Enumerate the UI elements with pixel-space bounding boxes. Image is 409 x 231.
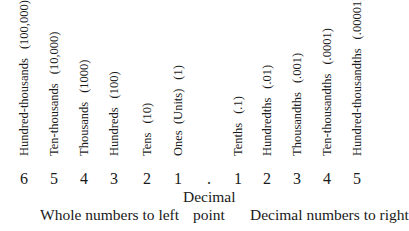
place-name: Hundredths [260, 98, 274, 156]
place-column-thousandths: Thousandths(.001) 3 [282, 0, 312, 231]
place-column-ten-thousandths: Ten-thousandths(.0001) 4 [312, 0, 342, 231]
place-value: (.0001) [320, 28, 334, 64]
place-name: Hundred-thousands [17, 58, 31, 156]
place-digit: 3 [99, 170, 129, 188]
place-digit: 4 [69, 170, 99, 188]
place-name: Tenths [231, 123, 245, 156]
place-value: (10) [140, 103, 154, 124]
place-digit: 2 [132, 170, 162, 188]
place-column-tens: Tens(10) 2 [132, 0, 162, 231]
place-value: (.1) [231, 96, 245, 114]
place-value: (.01) [260, 65, 274, 89]
place-digit: 2 [252, 170, 282, 188]
decimal-point-label-line2: point [193, 206, 225, 224]
place-column-hundred-thousandths: Hundred-thousandths(.00001) 5 [342, 0, 372, 231]
place-column-hundred-thousands: Hundred-thousands(100,000) 6 [9, 0, 39, 231]
decimal-point-symbol: . [194, 170, 224, 188]
place-name: Hundred-thousandths [350, 48, 364, 156]
place-name: Ones (Units) [171, 89, 185, 156]
decimal-point-label-line1: Decimal [183, 188, 236, 206]
place-digit: 1 [223, 170, 253, 188]
place-name: Hundreds [107, 107, 121, 156]
place-value: (100,000) [17, 0, 31, 49]
place-name: Ten-thousands [47, 83, 61, 156]
place-column-ten-thousands: Ten-thousands(10,000) 5 [39, 0, 69, 231]
place-name: Ten-thousandths [320, 74, 334, 156]
place-digit: 3 [282, 170, 312, 188]
place-column-thousands: Thousands(1000) 4 [69, 0, 99, 231]
place-value: (.001) [290, 53, 304, 83]
place-value: (1000) [77, 60, 91, 93]
place-digit: 4 [312, 170, 342, 188]
place-value: (.00001) [350, 0, 364, 39]
place-digit: 5 [342, 170, 372, 188]
place-digit: 5 [39, 170, 69, 188]
place-value: (100) [107, 71, 121, 98]
place-value: (1) [171, 65, 185, 80]
whole-numbers-caption: Whole numbers to left [40, 206, 179, 224]
place-value: (10,000) [47, 32, 61, 75]
decimal-numbers-caption: Decimal numbers to right [250, 206, 409, 224]
place-column-hundreds: Hundreds(100) 3 [99, 0, 129, 231]
place-digit: 1 [163, 170, 193, 188]
place-name: Thousands [77, 102, 91, 156]
place-name: Thousandths [290, 92, 304, 156]
place-name: Tens [140, 133, 154, 156]
place-column-hundredths: Hundredths(.01) 2 [252, 0, 282, 231]
place-digit: 6 [9, 170, 39, 188]
